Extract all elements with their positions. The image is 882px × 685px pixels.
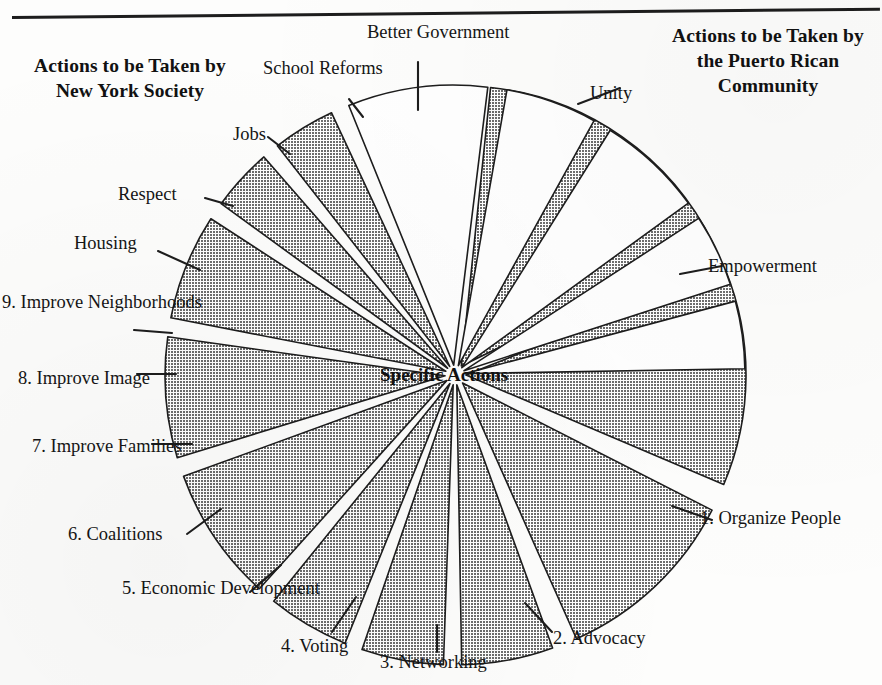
pie-slice-label: 1. Organize People xyxy=(700,508,841,529)
pie-slice-label: Better Government xyxy=(367,22,509,43)
pie-slice-label: 7. Improve Families xyxy=(32,436,182,457)
pie-slice-label: 5. Economic Development xyxy=(122,578,320,599)
heading-new-york-society: Actions to be Taken by New York Society xyxy=(24,54,236,104)
pie-slice-label: Unity xyxy=(590,83,632,104)
pie-slice-label: Empowerment xyxy=(708,256,817,277)
pie-slice-label: 4. Voting xyxy=(281,636,348,657)
heading-puerto-rican-community: Actions to be Taken by the Puerto Rican … xyxy=(666,24,870,99)
pie-slice-label: School Reforms xyxy=(263,58,383,79)
pie-slice-label: Jobs xyxy=(233,124,266,145)
pie-slice-label: 8. Improve Image xyxy=(18,368,150,389)
label-leader-line xyxy=(134,330,172,333)
pie-slice-label: 2. Advocacy xyxy=(553,628,645,649)
pie-slice-label: 6. Coalitions xyxy=(68,524,163,545)
chart-page: Actions to be Taken by New York Society … xyxy=(0,0,882,685)
pie-slice-label: 3. Networking xyxy=(380,652,487,673)
pie-slice-label: 9. Improve Neighborhoods xyxy=(2,292,202,313)
pie-center-label: Specific Actions xyxy=(380,364,508,386)
pie-slice-label: Housing xyxy=(74,233,137,254)
pie-slice-label: Respect xyxy=(118,184,177,205)
